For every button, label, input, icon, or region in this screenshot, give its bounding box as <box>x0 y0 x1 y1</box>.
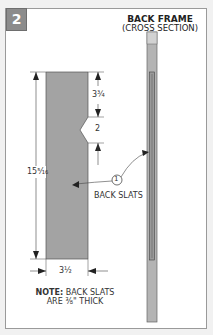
back-slat-profile <box>46 72 88 259</box>
slat-width-label: 3½ <box>59 266 72 275</box>
note-prefix: NOTE: <box>36 288 64 297</box>
callout-number: 1 <box>114 175 118 183</box>
note-text: NOTE: BACK SLATS ARE ⅜" THICK <box>25 288 125 306</box>
note-line1: BACK SLATS <box>66 288 115 297</box>
notch-width-label: 2 <box>95 124 100 133</box>
note-line2: ARE ⅜" THICK <box>25 297 125 306</box>
callout-label: BACK SLATS <box>94 191 143 200</box>
top-to-notch-label: 3¾ <box>92 90 105 99</box>
overall-length-label: 15⁵⁄₁₆ <box>27 167 48 176</box>
